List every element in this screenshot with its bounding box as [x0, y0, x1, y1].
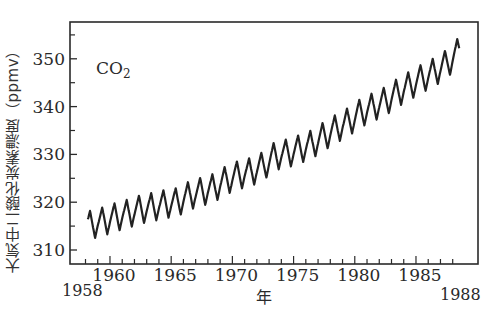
- y-tick-label: 330: [33, 144, 65, 164]
- x-tick-label: 1970: [215, 265, 258, 285]
- y-tick-label: 350: [33, 49, 65, 69]
- co2-series-line: [88, 39, 459, 238]
- x-start-label: 1958: [62, 281, 103, 300]
- y-tick-label: 310: [33, 240, 65, 260]
- x-axis-label: 年: [256, 288, 272, 307]
- y-axis-label: 大気中二酸化炭素濃度（ppmv）: [2, 40, 24, 276]
- x-end-label: 1988: [440, 285, 481, 304]
- x-tick-label: 1975: [276, 265, 319, 285]
- x-axis-ticks: 196019651970197519801985: [86, 256, 453, 285]
- x-tick-label: 1965: [154, 265, 197, 285]
- y-tick-label: 320: [33, 192, 65, 212]
- x-tick-label: 1980: [337, 265, 380, 285]
- co2-annotation: CO2: [96, 58, 131, 81]
- co2-chart: 310320330340350 196019651970197519801985…: [0, 0, 491, 313]
- x-tick-label: 1985: [398, 265, 441, 285]
- y-tick-label: 340: [33, 97, 65, 117]
